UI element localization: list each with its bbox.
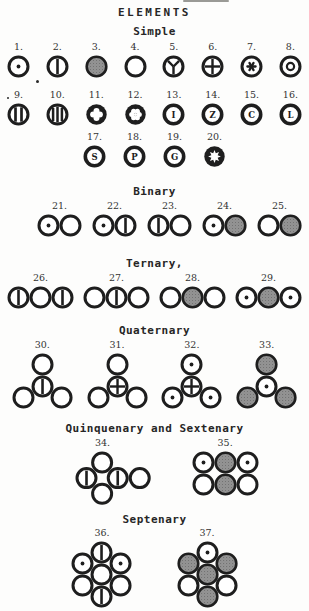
dot-circle-icon [238, 453, 257, 472]
hatched-circle-icon [238, 388, 258, 408]
empty-circle-icon [217, 576, 236, 595]
item-number: 23. [162, 200, 177, 212]
compound-item-23: 23. [145, 200, 194, 239]
empty-circle-icon [112, 576, 131, 595]
empty-circle-icon [85, 288, 104, 307]
compound-item-28: 28. [157, 272, 228, 311]
compound-symbol-single: S [81, 143, 108, 170]
compound-symbol-triple [5, 284, 76, 311]
dot-circle-icon [163, 388, 182, 407]
diagram-title: ELEMENTS [0, 6, 309, 19]
section-heading: Binary [0, 185, 309, 198]
bar-circle-icon [116, 216, 135, 235]
dot-circle-icon [182, 355, 201, 374]
hatched-circle-icon [276, 388, 296, 408]
compound-symbol-hepta [175, 539, 240, 610]
empty-circle-icon [171, 216, 190, 235]
bar-circle-icon [33, 377, 52, 396]
empty-circle-icon [33, 355, 52, 374]
compound-symbol-single [44, 101, 71, 128]
symbol-row: 1.2.3.4.5.6.7.8. [0, 41, 309, 80]
compound-symbol-tetra [85, 351, 150, 411]
section-heading: Quinquenary and Sextenary [0, 422, 309, 435]
item-number: 5. [169, 41, 178, 53]
compound-item-33: 33. [234, 339, 299, 411]
compound-item-19: 19.G [161, 131, 188, 170]
compound-item-17: 17.S [81, 131, 108, 170]
item-number: 26. [33, 272, 48, 284]
compound-item-1: 1. [5, 41, 32, 80]
section-simple: Simple1.2.3.4.5.6.7.8.9.10.11.12.13.I14.… [0, 25, 309, 170]
symbol-row: 17.S18.P19.G20. [0, 131, 309, 170]
svg-text:C: C [248, 110, 255, 120]
compound-symbol-single: C [238, 101, 265, 128]
ringdot-circle-icon [281, 57, 300, 76]
item-number: 21. [52, 200, 67, 212]
empty-circle-icon [131, 469, 150, 488]
dot-circle-icon [9, 57, 28, 76]
dot-circle-icon [198, 543, 217, 562]
gear-circle-icon [204, 146, 224, 166]
empty-circle-icon [89, 388, 108, 407]
stripes3-circle-icon [48, 105, 67, 124]
dot-circle-icon [204, 216, 223, 235]
item-number: 36. [94, 527, 109, 539]
bar-circle-icon [92, 587, 111, 606]
compound-item-37: 37. [175, 527, 240, 610]
compound-item-15: 15.C [238, 89, 265, 128]
compound-symbol-pair [255, 212, 304, 239]
spokes3-circle-icon [164, 57, 183, 76]
compound-symbol-single [5, 53, 32, 80]
item-number: 13. [166, 89, 181, 101]
empty-circle-icon [73, 576, 92, 595]
star-circle-icon [242, 57, 261, 76]
compound-symbol-pair [145, 212, 194, 239]
symbol-row: 9.10.11.12.13.I14.Z15.C16.L [0, 89, 309, 128]
dot-circle-icon [257, 377, 276, 396]
item-number: 10. [50, 89, 65, 101]
compound-symbol-single: Z [199, 101, 226, 128]
item-number: 7. [247, 41, 256, 53]
item-number: 32. [184, 339, 199, 351]
compound-item-4: 4. [122, 41, 149, 80]
compound-symbol-triple [157, 284, 228, 311]
compound-item-7: 7. [238, 41, 265, 80]
item-number: 30. [35, 339, 50, 351]
flower6-circle-icon [125, 104, 145, 124]
item-number: 25. [272, 200, 287, 212]
dot-circle-icon [94, 216, 113, 235]
compound-item-12: 12. [122, 89, 149, 128]
section-heading: Quaternary [0, 324, 309, 337]
scan-artifact-top [183, 0, 229, 2]
compound-symbol-single [122, 53, 149, 80]
item-number: 14. [205, 89, 220, 101]
item-number: 17. [87, 131, 102, 143]
compound-symbol-single [160, 53, 187, 80]
compound-item-30: 30. [10, 339, 75, 411]
compound-symbol-single [199, 53, 226, 80]
section-heading: Ternary, [0, 257, 309, 270]
item-number: 2. [53, 41, 62, 53]
section-quinquenary-and-sextenary: Quinquenary and Sextenary34.35. [0, 422, 309, 507]
empty-circle-icon [92, 565, 111, 584]
cross-circle-icon [203, 57, 222, 76]
item-number: 18. [127, 131, 142, 143]
empty-circle-icon [238, 475, 257, 494]
item-number: 1. [14, 41, 23, 53]
svg-text:Z: Z [210, 110, 216, 120]
compound-symbol-single: I [160, 101, 187, 128]
compound-symbol-single [277, 53, 304, 80]
symbol-row: 34.35. [0, 437, 309, 507]
compound-symbol-pair [90, 212, 139, 239]
compound-symbol-single [5, 101, 32, 128]
empty-circle-icon [194, 475, 213, 494]
letter-I-circle-icon: I [165, 105, 183, 123]
dot-circle-icon [281, 288, 300, 307]
compound-item-20: 20. [201, 131, 228, 170]
symbol-row: 26.27.28.29. [0, 272, 309, 311]
compound-item-24: 24. [200, 200, 249, 239]
hatched-circle-icon [215, 475, 235, 495]
compound-symbol-triple [233, 284, 304, 311]
empty-circle-icon [14, 388, 33, 407]
compound-symbol-single: L [277, 101, 304, 128]
